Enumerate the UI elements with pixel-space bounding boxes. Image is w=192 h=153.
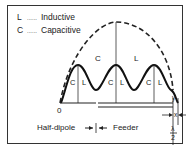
dimension-label-x: x [174, 111, 178, 118]
wave-label-6: L [158, 78, 162, 87]
origin-label: 0 [57, 106, 62, 115]
wave-label-3: C [108, 78, 114, 87]
wave-label-2: L [82, 78, 86, 87]
standing-wave-diagram: L ...... Inductive C ...... Capacitive C… [0, 0, 192, 153]
legend-dots-c: ...... [27, 28, 37, 34]
legend-dots-l: ...... [27, 15, 37, 21]
junction-arrows-icon [85, 123, 107, 133]
legend-key-c: C [17, 25, 23, 35]
wave-label-5: C [146, 78, 152, 87]
half-dipole-label: Half-dipole [37, 123, 76, 132]
legend: L ...... Inductive C ...... Capacitive [17, 12, 81, 35]
lambda-numerator: λ [171, 125, 175, 132]
envelope-label-l: L [134, 54, 139, 63]
wave-label-4: L [120, 78, 124, 87]
legend-label-inductive: Inductive [41, 12, 75, 22]
legend-label-capacitive: Capacitive [41, 25, 81, 35]
legend-key-l: L [17, 12, 22, 22]
lambda-denominator: 2 [171, 134, 175, 141]
wave-label-1: C [70, 78, 76, 87]
envelope-label-c: C [95, 54, 101, 63]
feeder-label: Feeder [113, 123, 139, 132]
